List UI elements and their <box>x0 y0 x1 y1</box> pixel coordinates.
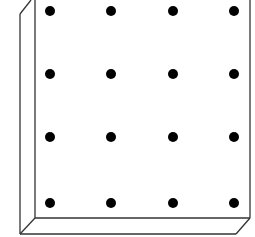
peg-dot-r1-c2 <box>106 6 116 16</box>
side-top-bevel <box>20 0 31 14</box>
corner-bevel-left <box>20 218 35 234</box>
peg-dot-r4-c1 <box>45 198 55 208</box>
geoboard <box>0 0 255 237</box>
peg-dot-r4-c3 <box>168 198 178 208</box>
corner-bevel-right <box>236 218 250 234</box>
peg-dot-r2-c4 <box>229 69 239 79</box>
peg-dot-r2-c1 <box>45 69 55 79</box>
peg-dot-r1-c1 <box>45 6 55 16</box>
peg-dot-r1-c4 <box>229 6 239 16</box>
peg-dot-r3-c2 <box>106 132 116 142</box>
board-outline <box>20 0 250 234</box>
dot-grid <box>45 6 239 208</box>
peg-dot-r2-c2 <box>106 69 116 79</box>
peg-dot-r2-c3 <box>168 69 178 79</box>
peg-dot-r4-c4 <box>229 198 239 208</box>
peg-dot-r3-c4 <box>229 132 239 142</box>
peg-dot-r3-c3 <box>168 132 178 142</box>
peg-dot-r3-c1 <box>45 132 55 142</box>
peg-dot-r1-c3 <box>168 6 178 16</box>
peg-dot-r4-c2 <box>106 198 116 208</box>
